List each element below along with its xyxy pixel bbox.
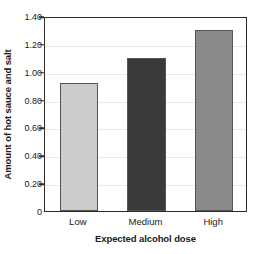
x-axis-tick-label: Low xyxy=(69,216,86,227)
y-axis-tick-label: 0.60 xyxy=(8,123,42,133)
y-axis-tick-label: 0 xyxy=(8,207,42,217)
y-axis-tick-label: 0.40 xyxy=(8,151,42,161)
bar-series xyxy=(45,18,246,211)
y-axis-tick-label: 1.40 xyxy=(8,12,42,22)
y-axis-tick-label: 0.20 xyxy=(8,179,42,189)
bar xyxy=(127,58,165,211)
bar-chart-figure: Amount of hot sauce and salt 00.200.400.… xyxy=(0,0,260,254)
bar xyxy=(60,83,98,211)
plot-area xyxy=(44,17,247,212)
y-axis-tick-label: 0.80 xyxy=(8,96,42,106)
x-axis-title: Expected alcohol dose xyxy=(44,233,247,244)
y-axis-tick-label: 1.00 xyxy=(8,68,42,78)
bar xyxy=(195,30,233,211)
x-axis-tick-label: High xyxy=(203,216,223,227)
x-axis-tick-label: Medium xyxy=(129,216,163,227)
y-axis-tick-label: 1.20 xyxy=(8,40,42,50)
